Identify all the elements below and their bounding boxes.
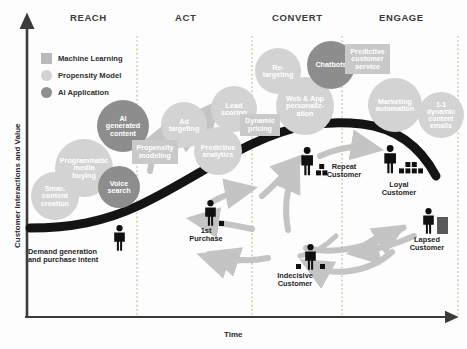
person-pictogram-icon <box>300 147 314 176</box>
phase-header-engage: ENGAGE <box>379 12 424 23</box>
phase-header-reach: REACH <box>70 12 107 23</box>
persona-figure-lapsed[interactable] <box>422 208 448 234</box>
y-axis-label: Customer Interactions and Value <box>13 124 22 248</box>
machine-learning-swatch-icon <box>41 53 52 64</box>
door-icon <box>437 217 448 234</box>
box-label-propensity-modeling[interactable]: Propensity modeling <box>132 140 178 164</box>
legend-label-propensity-model: Propensity Model <box>58 71 121 80</box>
persona-label-repeat: Repeat Customer <box>318 163 370 180</box>
legend-label-ai-application: AI Application <box>58 88 109 97</box>
x-axis-label: Time <box>224 330 243 339</box>
bubble-1-1-dynamic-content-emails[interactable]: 1-1 dynamic content emails <box>418 92 464 138</box>
persona-label-1st: 1st Purchase <box>178 227 234 244</box>
persona-figure-loyal[interactable] <box>383 145 423 174</box>
persona-label-loyal: Loyal Customer <box>372 181 426 198</box>
persona-label-indecisive: Indecisive Customer <box>268 272 322 289</box>
purchase-boxes-icon <box>295 244 302 270</box>
person-pictogram-icon <box>383 145 397 174</box>
persona-figure-1st[interactable] <box>204 200 224 226</box>
purchase-boxes-icon <box>219 221 224 226</box>
phase-header-convert: CONVERT <box>272 12 323 23</box>
box-label-predictive-customer-service[interactable]: Predictive customer service <box>345 44 390 74</box>
bubble-marketing-automation[interactable]: Marketing automation <box>368 78 422 132</box>
persona-label-demand-generation: Demand generation and purchase intent <box>28 248 120 265</box>
legend-item-machine-learning: Machine Learning <box>41 53 123 64</box>
legend-item-ai-application: AI Application <box>41 87 109 98</box>
person-pictogram-icon <box>204 200 217 226</box>
box-label-dynamic-pricing[interactable]: Dynamic pricing <box>240 114 280 136</box>
persona-label-lapsed: Lapsed Customer <box>400 236 454 253</box>
bubble-predictive-analytics[interactable]: Predictive analytics <box>194 127 242 175</box>
legend-item-propensity-model: Propensity Model <box>41 70 121 81</box>
phase-header-act: ACT <box>175 12 196 23</box>
propensity-model-swatch-icon <box>41 70 52 81</box>
purchase-boxes-icon <box>319 244 326 270</box>
persona-figure-indecisive[interactable] <box>295 244 326 270</box>
legend-label-machine-learning: Machine Learning <box>58 54 123 63</box>
ai-application-swatch-icon <box>41 87 52 98</box>
person-pictogram-icon <box>422 208 435 234</box>
diagram-root: REACH ACT CONVERT ENGAGE Machine Learnin… <box>0 0 467 349</box>
bubble-voice-search[interactable]: Voice search <box>98 166 140 208</box>
purchase-boxes-icon <box>399 162 423 173</box>
person-pictogram-icon <box>304 244 317 270</box>
